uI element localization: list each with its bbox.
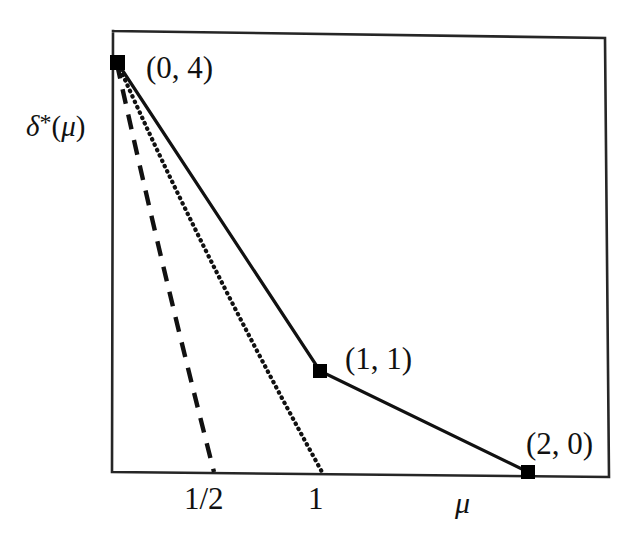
x-tick-label-one: 1 bbox=[308, 483, 324, 514]
dotted-reference-line bbox=[118, 64, 322, 472]
x-tick-label-half: 1/2 bbox=[184, 483, 224, 514]
y-axis-label-text: δ*(μ) bbox=[26, 110, 85, 142]
annotation-point-2-0: (2, 0) bbox=[526, 428, 593, 459]
annotation-point-0-4: (0, 4) bbox=[146, 52, 213, 83]
data-point-marker-0-4 bbox=[110, 55, 125, 70]
data-point-marker-2-0 bbox=[521, 465, 535, 479]
dashed-reference-line bbox=[117, 64, 214, 472]
y-axis-label: δ*(μ) bbox=[26, 110, 85, 141]
data-point-marker-1-1 bbox=[313, 364, 327, 378]
figure-canvas: δ*(μ) (0, 4) (1, 1) (2, 0) 1/2 1 μ bbox=[0, 0, 635, 538]
annotation-point-1-1: (1, 1) bbox=[345, 343, 412, 374]
plot-frame bbox=[112, 31, 609, 477]
delta-star-curve bbox=[117, 62, 528, 472]
x-axis-label: μ bbox=[455, 488, 470, 518]
